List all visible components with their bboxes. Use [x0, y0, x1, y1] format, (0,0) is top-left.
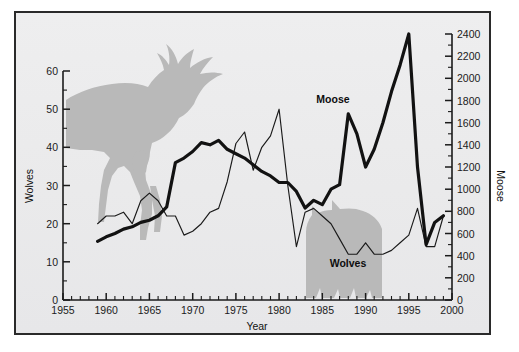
x-axis-tick-labels: 1955 1960 1965 1970 1975 1980 1985 1990 … [51, 304, 464, 316]
y-right-tick-2400: 2400 [457, 28, 481, 40]
y-left-tick-40: 40 [46, 141, 58, 153]
y-right-tick-1400: 1400 [457, 139, 481, 151]
y-axis-right-label: Moose [495, 170, 507, 202]
y-axis-left-tick-labels: 0 10 20 30 40 50 60 [46, 65, 58, 306]
x-tick-1970: 1970 [181, 304, 205, 316]
y-right-tick-2200: 2200 [457, 50, 481, 62]
y-left-tick-50: 50 [46, 103, 58, 115]
y-right-tick-2000: 2000 [457, 72, 481, 84]
x-axis-label: Year [246, 320, 268, 332]
moose-series-label: Moose [316, 93, 349, 105]
x-tick-1975: 1975 [224, 304, 248, 316]
x-tick-1990: 1990 [354, 304, 378, 316]
y-right-tick-1600: 1600 [457, 117, 481, 129]
y-right-tick-200: 200 [457, 272, 475, 284]
y-left-tick-60: 60 [46, 65, 58, 77]
moose-silhouette-icon [66, 44, 223, 240]
y-right-tick-1200: 1200 [457, 161, 481, 173]
y-left-tick-20: 20 [46, 218, 58, 230]
x-tick-1980: 1980 [267, 304, 291, 316]
x-tick-1995: 1995 [397, 304, 421, 316]
y-right-tick-600: 600 [457, 228, 475, 240]
y-left-tick-10: 10 [46, 256, 58, 268]
y-axis-right-tick-labels: 0 200 400 600 800 1000 1200 1400 1600 18… [457, 28, 481, 306]
x-tick-1965: 1965 [138, 304, 162, 316]
y-left-tick-30: 30 [46, 180, 58, 192]
x-tick-1955: 1955 [51, 304, 75, 316]
chart-figure: 0 10 20 30 40 50 60 Wolves [0, 0, 519, 352]
y-right-tick-400: 400 [457, 250, 475, 262]
y-right-tick-1800: 1800 [457, 95, 481, 107]
x-axis-ticks [63, 293, 452, 300]
y-axis-right-ticks [445, 34, 452, 300]
x-tick-1960: 1960 [95, 304, 119, 316]
wolves-series-label: Wolves [330, 257, 367, 269]
x-tick-2000: 2000 [440, 304, 464, 316]
plot-area: 0 10 20 30 40 50 60 Wolves [0, 0, 519, 352]
x-tick-1985: 1985 [311, 304, 335, 316]
y-right-tick-800: 800 [457, 205, 475, 217]
y-axis-left-label: Wolves [23, 169, 35, 203]
y-right-tick-1000: 1000 [457, 183, 481, 195]
